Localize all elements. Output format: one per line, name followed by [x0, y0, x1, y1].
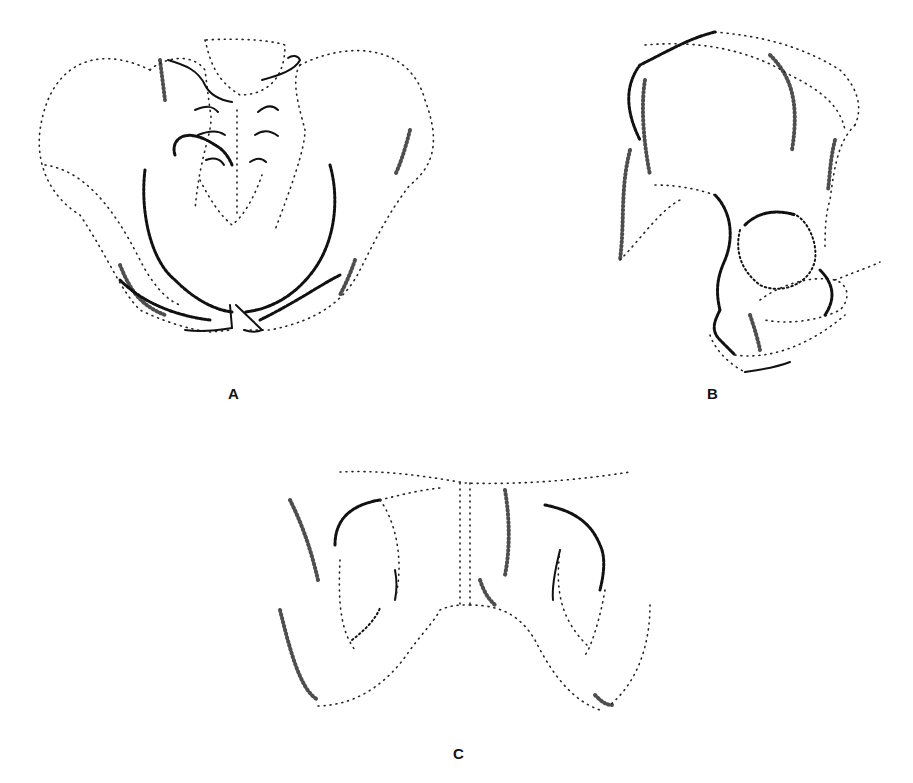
panel-label-a: A — [228, 385, 239, 402]
panel-c-drawing — [0, 0, 913, 783]
panel-label-b: B — [707, 385, 718, 402]
panel-label-c: C — [453, 745, 464, 762]
pelvis-figure: A B C — [0, 0, 913, 783]
